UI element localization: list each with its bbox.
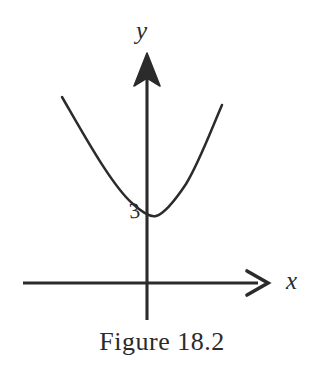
coordinate-plot bbox=[0, 0, 324, 365]
x-axis-label: x bbox=[286, 268, 297, 293]
figure-caption: Figure 18.2 bbox=[0, 327, 324, 357]
y-intercept-label: 3 bbox=[128, 199, 141, 222]
parabola-curve bbox=[62, 97, 222, 216]
y-axis-label: y bbox=[136, 18, 147, 43]
figure-container: y x 3 Figure 18.2 bbox=[0, 0, 324, 365]
